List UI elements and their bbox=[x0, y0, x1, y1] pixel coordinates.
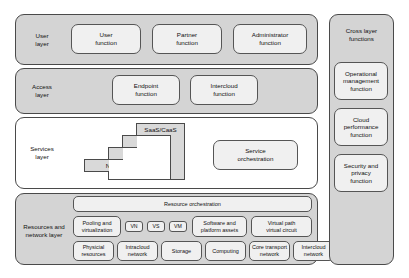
security-privacy-function-box[interactable]: Security and privacy function bbox=[334, 154, 388, 192]
services-layer-label: Services layer bbox=[21, 142, 63, 164]
storage-box[interactable]: Storage bbox=[161, 241, 202, 261]
intercloud-network-box[interactable]: Intercloud network bbox=[293, 241, 334, 261]
operational-management-function-box[interactable]: Operational management function bbox=[334, 62, 388, 100]
intracloud-network-box[interactable]: Intracloud network bbox=[117, 241, 158, 261]
user-function-box[interactable]: User function bbox=[71, 24, 141, 54]
physical-resources-box[interactable]: Physicial resources bbox=[73, 241, 114, 261]
computing-box[interactable]: Computing bbox=[205, 241, 246, 261]
partner-function-box[interactable]: Partner function bbox=[152, 24, 222, 54]
intercloud-function-box[interactable]: Intercloud function bbox=[190, 75, 258, 105]
resources-network-layer-label: Resources and network layer bbox=[18, 221, 70, 241]
cloud-performance-function-box[interactable]: Cloud performance function bbox=[334, 108, 388, 146]
resource-orchestration-box[interactable]: Resource orchestration bbox=[73, 196, 312, 212]
saas-caas-label: SaaS/CaaS bbox=[137, 124, 184, 135]
access-layer-label: Access layer bbox=[21, 80, 63, 102]
cloud-architecture-diagram: User layer User function Partner functio… bbox=[0, 0, 409, 278]
vm-box[interactable]: VM bbox=[169, 221, 187, 232]
endpoint-function-box[interactable]: Endpoint function bbox=[112, 75, 180, 105]
pooling-virtualization-box[interactable]: Pooling and virtualization bbox=[73, 216, 121, 237]
vn-box[interactable]: VN bbox=[125, 221, 143, 232]
stack-cutout-3 bbox=[109, 160, 142, 179]
administrator-function-box[interactable]: Administrator function bbox=[233, 24, 307, 54]
cross-layer-functions-label: Cross layer functions bbox=[332, 26, 391, 44]
vs-box[interactable]: VS bbox=[147, 221, 165, 232]
core-transport-network-box[interactable]: Core transport network bbox=[249, 241, 290, 261]
user-layer-label: User layer bbox=[21, 29, 63, 51]
software-platform-assets-box[interactable]: Software and platform assets bbox=[192, 216, 247, 237]
virtual-path-virtual-circuit-box[interactable]: Virtual path virtual circuit bbox=[251, 216, 312, 237]
service-orchestration-box[interactable]: Service orchestration bbox=[213, 140, 298, 170]
